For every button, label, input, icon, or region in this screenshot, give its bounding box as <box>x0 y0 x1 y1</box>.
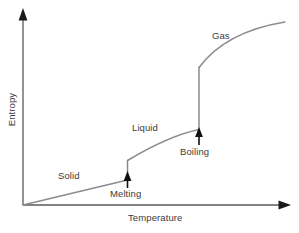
x-axis-title: Temperature <box>128 212 182 223</box>
annotation-label-melting: Melting <box>110 188 141 199</box>
chart-canvas <box>0 0 299 233</box>
y-axis-arrowhead-icon <box>19 8 28 21</box>
phase-label-solid: Solid <box>58 170 80 181</box>
curve-segment-gas <box>199 22 285 68</box>
phase-label-gas: Gas <box>212 30 230 41</box>
phase-label-liquid: Liquid <box>132 122 158 133</box>
x-axis-arrowhead-icon <box>279 201 292 210</box>
entropy-temperature-chart: Entropy Temperature Solid Liquid Gas Mel… <box>0 0 299 233</box>
boiling-arrow-icon <box>195 127 203 137</box>
melting-arrow-icon <box>124 171 132 181</box>
y-axis-title: Entropy <box>6 82 17 138</box>
annotation-label-boiling: Boiling <box>180 146 209 157</box>
